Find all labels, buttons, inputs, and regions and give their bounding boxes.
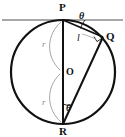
radius-label-lower: r [42,98,46,107]
geometry-canvas [0,0,125,137]
point-label-P: P [59,2,66,13]
angle-label-theta-at-R: θ [66,103,71,113]
angle-label-theta-at-P: θ [79,11,84,21]
radius-arc-upper [50,22,61,70]
point-label-Q: Q [106,31,115,42]
length-label-l: l [77,33,80,43]
point-label-R: R [59,126,67,137]
radius-label-upper: r [42,40,46,49]
leader-line-l [82,34,96,39]
geometry-figure: P Q R O l r r θ θ [0,0,125,137]
point-label-O-center: O [66,67,74,77]
radius-arc-lower [50,74,61,122]
